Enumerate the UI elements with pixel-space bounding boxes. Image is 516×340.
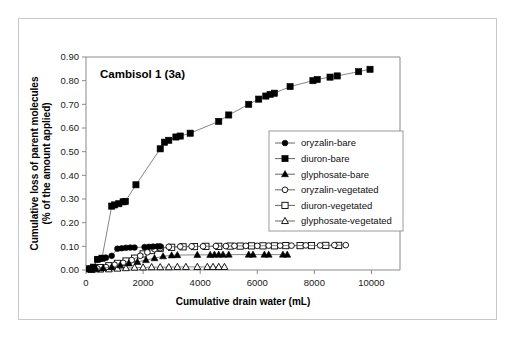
data-point <box>327 74 333 80</box>
data-point <box>223 243 229 249</box>
chart-canvas: 0.000.100.200.300.400.500.600.700.800.90… <box>0 0 516 340</box>
x-tick-label: 10000 <box>358 277 384 288</box>
data-point <box>356 69 362 75</box>
data-point <box>90 264 96 270</box>
data-point <box>226 112 232 118</box>
data-point <box>145 249 151 255</box>
y-tick-label: 0.90 <box>61 51 80 62</box>
y-tick-label: 0.10 <box>61 241 80 252</box>
data-point <box>221 263 228 269</box>
data-point <box>216 118 222 124</box>
plot-title: Cambisol 1 (3a) <box>100 68 185 80</box>
data-point <box>122 198 128 204</box>
data-point <box>303 243 309 249</box>
legend-label: oryzalin-bare <box>301 137 356 148</box>
y-axis-title-line2: (% of the amount applied) <box>41 102 52 224</box>
data-point <box>314 76 320 82</box>
x-tick-label: 4000 <box>190 277 211 288</box>
data-point <box>289 243 295 249</box>
x-tick-label: 2000 <box>133 277 154 288</box>
y-tick-label: 0.80 <box>61 75 80 86</box>
legend-label: glyphosate-vegetated <box>301 215 392 226</box>
plot-area: 0.000.100.200.300.400.500.600.700.800.90… <box>29 51 403 307</box>
y-axis-title-line1: Cumulative loss of parent molecules <box>29 76 40 250</box>
data-point <box>157 264 164 270</box>
data-point <box>166 244 172 250</box>
data-point <box>131 264 138 270</box>
data-point <box>246 101 252 107</box>
legend-label: oryzalin-vegetated <box>301 184 379 195</box>
data-point <box>200 243 206 249</box>
data-point <box>225 251 232 257</box>
data-point <box>367 66 373 72</box>
legend-marker-filled-circle-icon <box>282 140 288 146</box>
data-point <box>287 83 293 89</box>
data-point <box>182 263 189 269</box>
data-point <box>109 253 115 259</box>
y-tick-label: 0.50 <box>61 146 80 157</box>
data-point <box>99 255 105 261</box>
data-point <box>189 243 195 249</box>
data-point <box>334 73 340 79</box>
legend-marker-open-square-icon <box>282 202 288 208</box>
y-tick-label: 0.30 <box>61 193 80 204</box>
data-point <box>317 243 323 249</box>
data-point <box>232 243 238 249</box>
data-point <box>243 243 249 249</box>
data-point <box>166 137 172 143</box>
figure-root: 0.000.100.200.300.400.500.600.700.800.90… <box>0 0 516 340</box>
data-point <box>157 146 163 152</box>
data-point <box>137 253 143 259</box>
data-point <box>194 251 201 257</box>
data-point <box>343 242 349 248</box>
y-tick-label: 0.70 <box>61 99 80 110</box>
data-point <box>187 130 193 136</box>
data-point <box>277 243 283 249</box>
x-tick-label: 8000 <box>304 277 325 288</box>
data-point <box>194 263 201 269</box>
data-point <box>266 243 272 249</box>
y-tick-label: 0.60 <box>61 122 80 133</box>
data-point <box>165 264 172 270</box>
data-point <box>177 244 183 250</box>
data-point <box>157 243 163 249</box>
y-tick-label: 0.00 <box>61 264 80 275</box>
data-point <box>213 243 219 249</box>
data-point <box>132 245 138 251</box>
legend-marker-open-circle-icon <box>282 187 288 193</box>
data-point <box>148 264 155 270</box>
data-point <box>174 251 181 257</box>
y-tick-label: 0.20 <box>61 217 80 228</box>
data-point <box>256 96 262 102</box>
legend-marker-filled-square-icon <box>282 156 288 162</box>
legend-label: glyphosate-bare <box>301 169 369 180</box>
legend-label: diuron-bare <box>301 153 350 164</box>
data-point <box>133 182 139 188</box>
x-tick-label: 0 <box>83 277 88 288</box>
legend: oryzalin-barediuron-bareglyphosate-bareo… <box>269 131 403 231</box>
y-tick-label: 0.40 <box>61 170 80 181</box>
x-tick-label: 6000 <box>247 277 268 288</box>
data-point <box>331 242 337 248</box>
legend-label: diuron-vegetated <box>301 200 372 211</box>
x-axis-title: Cumulative drain water (mL) <box>176 296 310 307</box>
data-point <box>271 90 277 96</box>
data-point <box>174 263 181 269</box>
data-point <box>177 133 183 139</box>
data-point <box>254 243 260 249</box>
